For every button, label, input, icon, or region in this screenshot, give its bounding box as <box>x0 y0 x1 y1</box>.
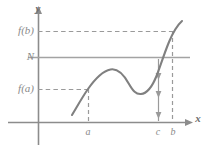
down-arrow-icon <box>156 112 162 119</box>
y-axis <box>35 6 42 145</box>
value-label-n: N <box>27 51 34 62</box>
value-label-fa: f(a) <box>18 83 34 94</box>
x-axis <box>8 119 193 126</box>
x-axis-label: x <box>195 113 201 124</box>
figure-canvas: y x f(b) N f(a) a c b <box>0 0 212 149</box>
function-curve <box>72 21 182 115</box>
x-axis-arrowhead <box>185 119 193 126</box>
tick-label-c: c <box>156 127 160 137</box>
value-label-fb: f(b) <box>18 25 34 36</box>
diagram-svg <box>0 0 212 149</box>
tick-label-a: a <box>86 127 91 137</box>
down-arrow-icon <box>156 91 162 98</box>
tick-label-b: b <box>171 127 176 137</box>
y-axis-label: y <box>36 3 41 14</box>
